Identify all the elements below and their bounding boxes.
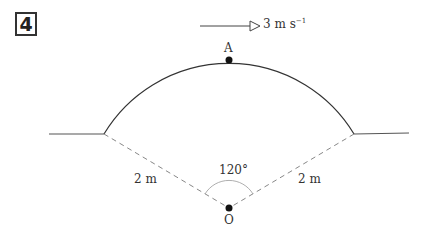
- diagram-canvas: [0, 0, 421, 233]
- angle-arc: [205, 180, 253, 194]
- radius-left-dashed: [104, 134, 229, 208]
- point-a-dot: [226, 57, 233, 64]
- label-radius-left: 2 m: [134, 172, 157, 186]
- circular-hump-arc: [104, 63, 354, 134]
- velocity-label: 3 m s−1: [263, 17, 306, 31]
- label-a: A: [224, 41, 233, 55]
- right-ground-line: [354, 133, 409, 134]
- point-o-dot: [226, 205, 233, 212]
- label-angle: 120°: [219, 163, 248, 177]
- velocity-arrow-head-icon: [250, 21, 260, 31]
- label-o: O: [224, 213, 234, 227]
- label-radius-right: 2 m: [298, 172, 321, 186]
